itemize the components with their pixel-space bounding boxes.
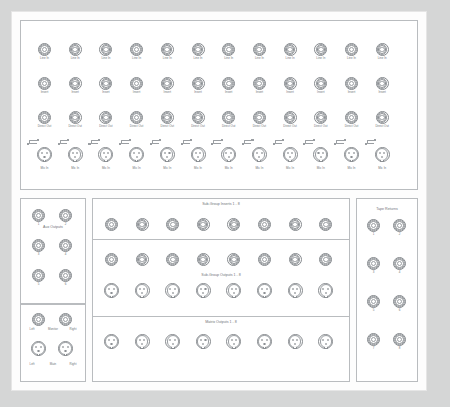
subgroup-output-trs-jack-1[interactable]	[105, 253, 118, 266]
mic-in-row-jack-11[interactable]	[344, 147, 359, 162]
insert-row-jack-8[interactable]	[253, 77, 266, 90]
subgroup-output-trs-jack-8[interactable]	[319, 253, 332, 266]
direct-out-row-jack-8[interactable]	[253, 111, 266, 124]
subgroup-insert-jack-1[interactable]	[105, 218, 118, 231]
mic-in-row-label-4: Mic In	[123, 167, 151, 170]
subgroup-output-xlr-jack-2[interactable]	[135, 283, 150, 298]
aux-output-jack-6[interactable]	[59, 269, 72, 282]
mic-in-row-jack-7[interactable]	[221, 147, 236, 162]
line-in-row-jack-6[interactable]	[192, 43, 205, 56]
subgroup-output-xlr-jack-7[interactable]	[288, 283, 303, 298]
line-in-row-jack-2[interactable]	[69, 43, 82, 56]
insert-row-jack-11[interactable]	[345, 77, 358, 90]
mic-in-row-jack-2[interactable]	[68, 147, 83, 162]
aux-output-jack-1[interactable]	[32, 209, 45, 222]
matrix-output-jack-2[interactable]	[135, 334, 150, 349]
line-in-row-jack-7[interactable]	[222, 43, 235, 56]
direct-out-row-label-10: Direct Out	[307, 125, 335, 128]
tape-return-jack-1[interactable]	[367, 219, 380, 232]
line-in-row-jack-3[interactable]	[99, 43, 112, 56]
line-in-row-jack-11[interactable]	[345, 43, 358, 56]
direct-out-row-jack-11[interactable]	[345, 111, 358, 124]
line-in-row-jack-12[interactable]	[376, 43, 389, 56]
mic-in-row-jack-4[interactable]	[129, 147, 144, 162]
subgroup-insert-jack-3[interactable]	[166, 218, 179, 231]
tape-return-jack-6[interactable]	[393, 295, 406, 308]
tape-return-jack-5[interactable]	[367, 295, 380, 308]
subgroup-insert-jack-2[interactable]	[136, 218, 149, 231]
mic-in-row-jack-6[interactable]	[191, 147, 206, 162]
subgroup-insert-jack-6[interactable]	[258, 218, 271, 231]
direct-out-row-jack-12[interactable]	[376, 111, 389, 124]
matrix-output-jack-3[interactable]	[165, 334, 180, 349]
direct-out-row-jack-2[interactable]	[69, 111, 82, 124]
subgroup-output-trs-jack-2[interactable]	[136, 253, 149, 266]
mic-in-row-jack-3[interactable]	[98, 147, 113, 162]
direct-out-row-jack-7[interactable]	[222, 111, 235, 124]
insert-row-jack-3[interactable]	[99, 77, 112, 90]
subgroup-insert-jack-4[interactable]	[197, 218, 210, 231]
matrix-output-jack-1[interactable]	[104, 334, 119, 349]
subgroup-output-trs-jack-5[interactable]	[227, 253, 240, 266]
direct-out-row-jack-5[interactable]	[161, 111, 174, 124]
aux-output-jack-4[interactable]	[59, 239, 72, 252]
tape-return-jack-7[interactable]	[367, 333, 380, 346]
tape-return-jack-8[interactable]	[393, 333, 406, 346]
matrix-output-jack-7[interactable]	[288, 334, 303, 349]
matrix-output-jack-4[interactable]	[196, 334, 211, 349]
subgroup-insert-jack-7[interactable]	[289, 218, 302, 231]
subgroup-output-xlr-jack-8[interactable]	[318, 283, 333, 298]
matrix-output-jack-6[interactable]	[257, 334, 272, 349]
subgroup-insert-jack-8[interactable]	[319, 218, 332, 231]
insert-row-jack-4[interactable]	[130, 77, 143, 90]
tape-return-jack-2[interactable]	[393, 219, 406, 232]
direct-out-row-jack-1[interactable]	[38, 111, 51, 124]
insert-row-jack-5[interactable]	[161, 77, 174, 90]
matrix-output-jack-8[interactable]	[318, 334, 333, 349]
mic-in-row-jack-9[interactable]	[283, 147, 298, 162]
direct-out-row-jack-6[interactable]	[192, 111, 205, 124]
mic-in-row-jack-10[interactable]	[313, 147, 328, 162]
mic-in-row-jack-12[interactable]	[375, 147, 390, 162]
insert-row-jack-2[interactable]	[69, 77, 82, 90]
aux-output-jack-2[interactable]	[59, 209, 72, 222]
aux-output-jack-3[interactable]	[32, 239, 45, 252]
subgroup-output-trs-jack-3[interactable]	[166, 253, 179, 266]
monitor-left-jack[interactable]	[32, 313, 45, 326]
line-in-row-jack-10[interactable]	[314, 43, 327, 56]
monitor-right-jack[interactable]	[59, 313, 72, 326]
insert-row-jack-9[interactable]	[284, 77, 297, 90]
insert-row-jack-10[interactable]	[314, 77, 327, 90]
direct-out-row-jack-10[interactable]	[314, 111, 327, 124]
tape-return-jack-3[interactable]	[367, 257, 380, 270]
subgroup-output-xlr-jack-1[interactable]	[104, 283, 119, 298]
insert-row-jack-12[interactable]	[376, 77, 389, 90]
direct-out-row-jack-4[interactable]	[130, 111, 143, 124]
subgroup-output-xlr-jack-6[interactable]	[257, 283, 272, 298]
subgroup-output-xlr-jack-5[interactable]	[226, 283, 241, 298]
mic-in-row-jack-8[interactable]	[252, 147, 267, 162]
mic-in-row-jack-5[interactable]	[160, 147, 175, 162]
main-right-jack[interactable]	[58, 341, 73, 356]
main-left-jack[interactable]	[31, 341, 46, 356]
subgroup-output-xlr-jack-3[interactable]	[165, 283, 180, 298]
insert-row-jack-1[interactable]	[38, 77, 51, 90]
matrix-output-jack-5[interactable]	[226, 334, 241, 349]
aux-output-jack-5[interactable]	[32, 269, 45, 282]
tape-return-jack-4[interactable]	[393, 257, 406, 270]
line-in-row-jack-9[interactable]	[284, 43, 297, 56]
line-in-row-jack-8[interactable]	[253, 43, 266, 56]
subgroup-output-xlr-jack-4[interactable]	[196, 283, 211, 298]
subgroup-output-trs-jack-7[interactable]	[289, 253, 302, 266]
line-in-row-jack-1[interactable]	[38, 43, 51, 56]
direct-out-row-jack-9[interactable]	[284, 111, 297, 124]
subgroup-output-trs-jack-6[interactable]	[258, 253, 271, 266]
subgroup-output-trs-jack-4[interactable]	[197, 253, 210, 266]
insert-row-jack-6[interactable]	[192, 77, 205, 90]
mic-in-row-jack-1[interactable]	[37, 147, 52, 162]
subgroup-insert-jack-5[interactable]	[227, 218, 240, 231]
direct-out-row-jack-3[interactable]	[99, 111, 112, 124]
line-in-row-jack-4[interactable]	[130, 43, 143, 56]
insert-row-jack-7[interactable]	[222, 77, 235, 90]
line-in-row-jack-5[interactable]	[161, 43, 174, 56]
